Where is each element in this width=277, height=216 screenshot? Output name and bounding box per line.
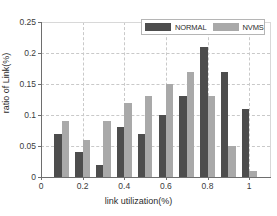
gridline-horizontal [41,53,270,54]
bar-nvms-0.5 [145,96,152,177]
y-tick-label: 0.25 [19,17,36,27]
y-tick-mark [38,84,41,85]
x-axis-label: link utilization(%) [0,196,277,206]
y-tick-label: 0 [31,172,36,182]
legend-entry-normal: NORMAL [145,23,207,32]
bar-normal-0.3 [96,165,103,177]
bar-nvms-0.3 [103,121,110,177]
y-tick-mark [38,115,41,116]
axis-right-spine [270,22,271,178]
x-tick-mark [41,177,42,180]
y-tick-label: 0.1 [24,110,36,120]
y-tick-mark [38,146,41,147]
gridline-horizontal [41,84,270,85]
bar-nvms-0.8 [208,96,215,177]
x-tick-label: 0.4 [118,181,130,191]
gridline-horizontal [41,115,270,116]
legend-label-nvms: NVMS [243,23,264,32]
y-tick-label: 0.15 [19,79,36,89]
bar-nvms-0.9 [228,146,235,177]
y-tick-mark [38,53,41,54]
bar-normal-0.6 [159,115,166,177]
bar-nvms-0.7 [187,72,194,177]
plot-area [41,22,270,177]
legend-swatch-normal [145,23,171,31]
axis-left-spine [41,22,42,178]
legend-entry-nvms: NVMS [213,23,264,32]
gridline-vertical [249,22,250,177]
x-tick-mark [249,177,250,180]
bar-normal-0.1 [54,134,61,177]
legend: NORMAL NVMS [141,19,265,35]
bar-normal-0.9 [221,72,228,177]
x-tick-label: 0.6 [160,181,172,191]
legend-label-normal: NORMAL [175,23,207,32]
x-tick-label: 0 [39,181,44,191]
axis-bottom-spine [41,177,271,178]
bar-normal-0.5 [138,134,145,177]
x-tick-label: 1 [247,181,252,191]
x-tick-label: 0.8 [202,181,214,191]
bar-nvms-0.4 [124,103,131,177]
legend-swatch-nvms [213,23,239,31]
bar-nvms-0.2 [83,140,90,177]
bar-normal-0.2 [75,152,82,177]
bar-normal-0.8 [200,47,207,177]
x-tick-mark [166,177,167,180]
bar-normal-0.7 [179,96,186,177]
y-tick-label: 0.05 [19,141,36,151]
y-tick-label: 0.2 [24,48,36,58]
x-tick-mark [124,177,125,180]
bar-normal-1 [242,109,249,177]
y-axis-label: ratio of Link(%) [1,23,11,143]
bar-chart-figure: 00.050.10.150.20.25 00.20.40.60.81 link … [0,0,277,216]
bar-nvms-0.1 [62,121,69,177]
bar-normal-0.4 [117,127,124,177]
x-tick-mark [83,177,84,180]
y-tick-mark [38,22,41,23]
x-tick-mark [208,177,209,180]
x-tick-label: 0.2 [77,181,89,191]
bar-nvms-0.6 [166,84,173,177]
